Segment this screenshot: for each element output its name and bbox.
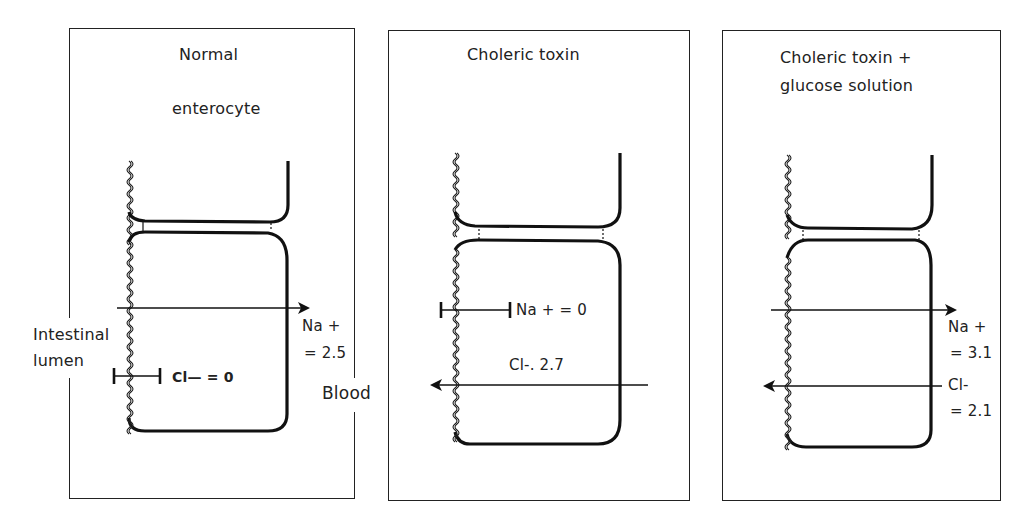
label-na-choleric: Na + = 0 [516,302,587,319]
label-blood: Blood [322,385,371,402]
panel-normal-title-line1: Normal [179,46,238,63]
microvilli-upper-icon [127,161,133,245]
label-na-glucose-line2: = 3.1 [950,345,992,362]
label-cl-choleric: Cl-. 2.7 [509,357,564,374]
panel-choleric-glucose-title-line1: Choleric toxin + [780,49,912,66]
label-cl-normal: Cl— = 0 [172,369,234,386]
label-na-normal-line2: = 2.5 [304,345,346,362]
panel-choleric-glucose-title-line2: glucose solution [780,77,913,94]
microvilli-upper-icon [453,153,459,237]
microvilli-lower-icon [127,242,133,434]
label-intestinal-lumen-line2: lumen [33,352,84,369]
cell-choleric-toxin-glucose [765,155,955,450]
cell-choleric-toxin [432,153,648,444]
label-intestinal-lumen-line1: Intestinal [33,326,109,343]
label-na-normal-line1: Na + [302,318,341,335]
label-cl-glucose-line1: Cl- [948,377,969,394]
microvilli-lower-icon [453,250,459,442]
panel-normal-title-line2: enterocyte [172,100,261,117]
microvilli-upper-icon [785,155,791,239]
label-cl-glucose-line2: = 2.1 [950,403,992,420]
panel-choleric-toxin-title: Choleric toxin [467,46,580,63]
microvilli-lower-icon [785,258,791,450]
cell-normal [114,161,308,434]
label-na-glucose-line1: Na + [948,319,987,336]
